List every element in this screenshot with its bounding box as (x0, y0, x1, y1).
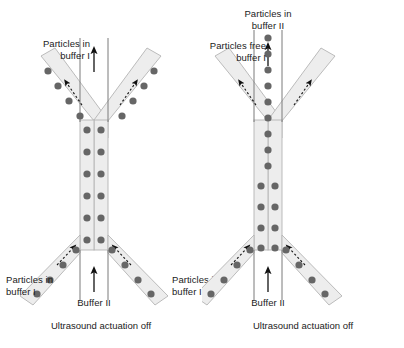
figure-container: Particles in buffer I Particles in buffe… (0, 0, 404, 348)
lower-right-arm-channel (282, 235, 342, 305)
right-panel-label-particles-free: Particles free buffer I (180, 40, 266, 63)
left-panel-label-top-left: Particles in buffer I (4, 38, 90, 61)
right-panel: Particles in buffer II Particles free bu… (202, 0, 404, 348)
left-panel-label-bottom-left: Particles in buffer I (6, 274, 92, 297)
main-vertical-channel-right-wall (80, 120, 94, 250)
left-panel-label-buffer-ii: Buffer II (64, 297, 124, 309)
right-panel-label-buffer-ii: Buffer II (238, 297, 298, 309)
left-panel: Particles in buffer I Particles in buffe… (0, 0, 202, 348)
main-vertical-channel-left-wall (94, 120, 108, 250)
right-panel-caption: Ultrasound actuation off (202, 320, 404, 332)
right-panel-label-particles-buffer-ii: Particles in buffer II (238, 8, 298, 31)
lower-right-arm-channel (108, 235, 168, 305)
left-panel-caption: Ultrasound actuation off (0, 320, 202, 332)
